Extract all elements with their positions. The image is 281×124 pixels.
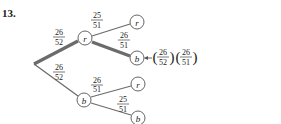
svg-text:(: ( <box>153 49 158 66</box>
prob-r-b: 26 51 <box>118 31 130 50</box>
svg-text:52: 52 <box>55 73 63 82</box>
result-arrow-icon <box>144 56 152 60</box>
svg-text:26: 26 <box>120 31 128 40</box>
svg-text:): ) <box>193 49 198 66</box>
svg-text:r: r <box>136 80 140 90</box>
prob-root-r: 26 52 <box>53 28 65 47</box>
node-bb: b <box>131 111 145 124</box>
node-rr: r <box>130 15 144 29</box>
node-b: b <box>77 93 91 107</box>
svg-text:51: 51 <box>93 85 101 94</box>
svg-text:51: 51 <box>182 58 190 67</box>
svg-text:26: 26 <box>55 63 63 72</box>
svg-text:b: b <box>136 114 141 124</box>
prob-r-r: 25 51 <box>91 11 103 30</box>
svg-text:26: 26 <box>159 48 167 57</box>
svg-text:26: 26 <box>93 76 101 85</box>
svg-text:): ) <box>170 49 175 66</box>
svg-text:51: 51 <box>93 21 101 30</box>
svg-text:51: 51 <box>119 105 127 114</box>
problem-number: 13. <box>2 7 16 19</box>
prob-root-b: 26 52 <box>53 63 65 82</box>
svg-text:51: 51 <box>120 41 128 50</box>
result-product: ( 26 52 ) ( 26 51 ) <box>153 48 198 67</box>
svg-text:b: b <box>135 54 140 64</box>
prob-b-r: 26 51 <box>91 76 103 94</box>
prob-b-b: 25 51 <box>117 95 129 114</box>
svg-text:52: 52 <box>55 38 63 47</box>
svg-text:(: ( <box>176 49 181 66</box>
svg-text:b: b <box>82 96 87 106</box>
node-br: r <box>131 77 145 91</box>
node-r: r <box>78 31 92 45</box>
svg-text:25: 25 <box>93 11 101 20</box>
node-rb: b <box>130 51 144 65</box>
svg-text:r: r <box>83 34 87 44</box>
svg-text:52: 52 <box>159 58 167 67</box>
svg-text:r: r <box>135 18 139 28</box>
svg-text:25: 25 <box>119 95 127 104</box>
svg-text:26: 26 <box>182 48 190 57</box>
svg-text:26: 26 <box>55 28 63 37</box>
tree-diagram: 13. r b r b r b 26 52 26 52 25 <box>0 0 281 124</box>
